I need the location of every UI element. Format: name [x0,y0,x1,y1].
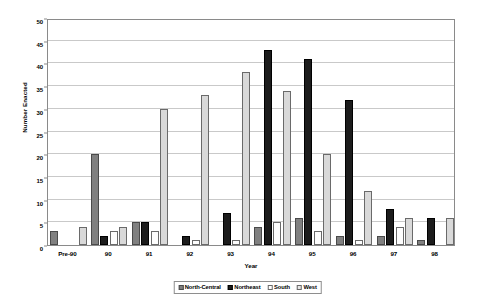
legend-label: North-Central [185,284,221,290]
x-tick-label: 96 [350,250,357,257]
bar [264,50,272,245]
bar [254,227,262,245]
bar [314,231,322,245]
bar [405,218,413,245]
x-tick-label: 94 [268,250,275,257]
bar [427,218,435,245]
legend-label: Northeast [234,284,260,290]
x-tick-label: 91 [146,250,153,257]
bar [377,236,385,245]
bar-chart: Number Enacted 05101520253035404550 Pre-… [0,0,495,307]
bar [295,218,303,245]
bar [160,109,168,245]
x-axis-ticks: Pre-90909192939495969798 [47,248,455,262]
bars-layer [48,20,454,245]
bar-group [295,20,332,245]
legend-swatch-icon [228,285,233,290]
bar [396,227,404,245]
legend-item[interactable]: Northeast [228,284,261,290]
bar [151,231,159,245]
bar [182,236,190,245]
bar [273,222,281,245]
y-axis-ticks: 05101520253035404550 [0,19,47,246]
bar [336,236,344,245]
x-tick-label: 98 [431,250,438,257]
bar [100,236,108,245]
legend-item[interactable]: South [267,284,289,290]
bar-group [254,20,291,245]
chart-legend: North-CentralNortheastSouthWest [173,281,322,294]
x-tick-label: 97 [390,250,397,257]
bar-group [50,20,87,245]
bar [446,218,454,245]
x-tick-label: 95 [309,250,316,257]
bar [192,240,200,245]
bar [141,222,149,245]
bar [232,240,240,245]
bar [417,240,425,245]
legend-swatch-icon [267,285,272,290]
bar [386,209,394,245]
bar [50,231,58,245]
bar [110,231,118,245]
bar [364,191,372,245]
legend-label: West [303,284,316,290]
bar [355,240,363,245]
bar [119,227,127,245]
bar-group [417,20,454,245]
bar [242,72,250,245]
x-tick-label: 93 [227,250,234,257]
bar [201,95,209,245]
x-axis-title: Year [47,262,455,269]
bar [91,154,99,245]
plot-area [47,19,455,246]
x-tick-label: 90 [105,250,112,257]
bar [345,100,353,245]
x-tick-label: 92 [186,250,193,257]
bar-group [173,20,210,245]
legend-item[interactable]: North-Central [178,284,221,290]
bar [283,91,291,245]
x-tick-label: Pre-90 [58,250,76,257]
bar [132,222,140,245]
bar [323,154,331,245]
bar [223,213,231,245]
bar [304,59,312,245]
bar-group [336,20,373,245]
bar-group [377,20,414,245]
legend-swatch-icon [178,285,183,290]
legend-label: South [274,284,290,290]
bar-group [91,20,128,245]
legend-item[interactable]: West [297,284,317,290]
legend-swatch-icon [297,285,302,290]
bar-group [213,20,250,245]
bar-group [132,20,169,245]
bar [79,227,87,245]
